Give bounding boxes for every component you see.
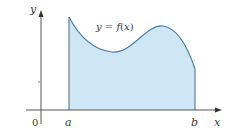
area-under-curve-diagram: y x 0 a b y = f(x) bbox=[0, 0, 230, 135]
y-axis-label: y bbox=[29, 3, 37, 16]
curve-label: y = f(x) bbox=[95, 21, 134, 32]
bound-b-label: b bbox=[191, 116, 198, 129]
bound-a-label: a bbox=[65, 116, 72, 129]
x-axis-arrow-icon bbox=[215, 108, 222, 113]
x-axis-label: x bbox=[214, 116, 221, 129]
origin-label: 0 bbox=[32, 117, 38, 128]
y-axis-arrow-icon bbox=[39, 10, 44, 17]
